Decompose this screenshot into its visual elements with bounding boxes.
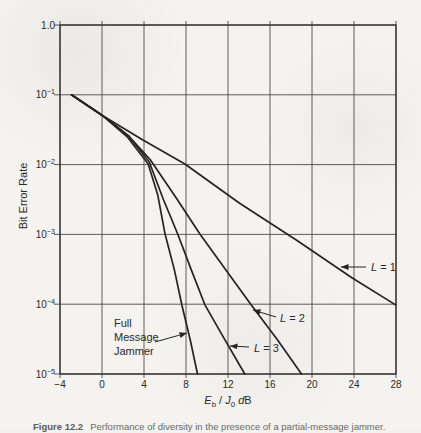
x-tick-label: 12 [222,379,234,390]
x-tick-label: 8 [183,379,189,390]
y-tick-label: 10−4 [36,297,55,310]
x-tick-label: 16 [264,379,276,390]
figure-caption: Figure 12.2Performance of diversity in t… [33,420,418,433]
curve-l-1 [72,95,397,305]
annotation-label-L1: L = 1 [341,261,396,273]
annotation-text: Jammer [114,345,154,357]
y-tick-label: 1.0 [41,20,55,31]
annotation-text: L = 3 [254,342,279,354]
x-tick-label: 20 [306,379,318,390]
annotation-label-L3: L = 3 [230,342,279,354]
x-tick-label: 28 [390,379,402,390]
annotation-arrow [253,310,276,317]
x-tick-label: 4 [141,379,147,390]
annotation-arrow [230,346,249,347]
annotation-text: Full [114,317,132,329]
annotation-label-full-message-jammer: FullMessageJammer [114,317,187,357]
x-tick-label: −4 [54,379,66,390]
gridlines [54,21,396,378]
y-tick-label: 10−2 [36,157,55,170]
y-axis-title: Bit Error Rate [17,163,29,230]
annotation-arrow [155,333,187,342]
x-tick-label: 0 [99,379,105,390]
y-tick-label: 10−5 [36,367,55,380]
x-axis-title: Eb / J0 dB [204,394,251,409]
y-tick-label: 10−1 [36,87,55,100]
annotation-text: L = 1 [371,261,396,273]
annotation-text: Message [114,331,159,343]
y-tick-label: 10−3 [36,227,55,240]
x-tick-label: 24 [348,379,360,390]
figure-caption-label: Figure 12.2 [33,421,83,432]
figure-caption-text: Performance of diversity in the presence… [90,421,385,432]
y-tick-labels: 1.010−110−210−310−410−5 [36,20,56,380]
x-tick-labels: −40481216202428 [54,379,402,390]
annotation-text: L = 2 [280,312,305,324]
ber-vs-ebj0-chart: 1.010−110−210−310−410−5−40481216202428Bi… [0,0,421,416]
